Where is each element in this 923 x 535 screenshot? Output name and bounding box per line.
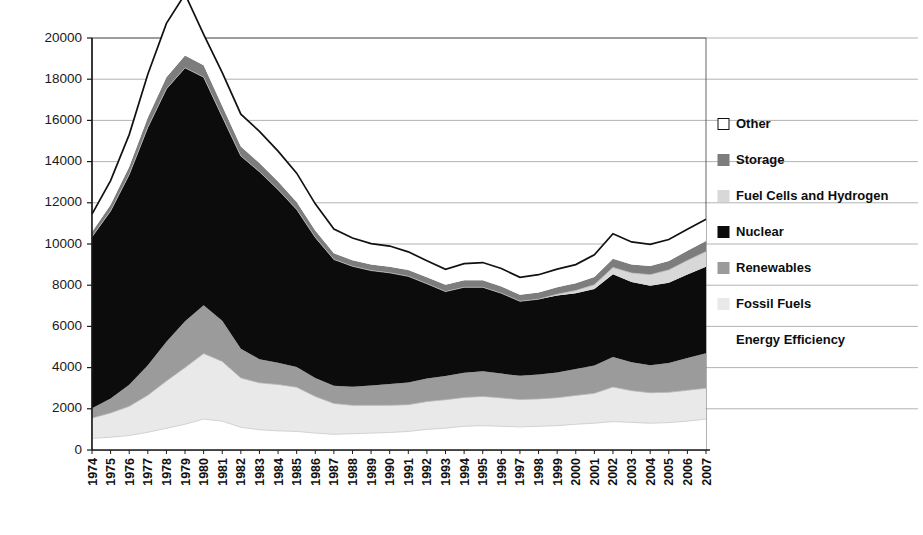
legend-swatch <box>718 299 729 310</box>
legend-label: Nuclear <box>736 224 784 239</box>
x-tick-label: 1983 <box>253 458 267 486</box>
x-tick-label: 2004 <box>644 458 658 486</box>
y-tick-label: 16000 <box>44 112 82 127</box>
x-tick-label: 2005 <box>662 458 676 486</box>
y-tick-label: 10000 <box>44 236 82 251</box>
y-tick-label: 0 <box>74 442 82 457</box>
x-tick-label: 1995 <box>476 458 490 486</box>
legend-item-other[interactable]: Other <box>718 116 771 131</box>
legend-item-fuel-cells-and-hydrogen[interactable]: Fuel Cells and Hydrogen <box>718 188 888 203</box>
y-tick-label: 4000 <box>52 359 82 374</box>
y-tick-label: 18000 <box>44 71 82 86</box>
x-tick-label: 1980 <box>197 458 211 486</box>
x-tick-label: 1994 <box>458 458 472 486</box>
x-tick-label: 1986 <box>309 458 323 486</box>
x-tick-label: 1979 <box>179 458 193 486</box>
legend-item-storage[interactable]: Storage <box>718 152 784 167</box>
legend-item-nuclear[interactable]: Nuclear <box>718 224 784 239</box>
x-tick-label: 1977 <box>141 458 155 486</box>
x-tick-label: 1992 <box>420 458 434 486</box>
x-tick-label: 2003 <box>625 458 639 486</box>
x-tick-label: 2007 <box>700 458 714 486</box>
legend-swatch <box>718 191 729 202</box>
x-tick-label: 1987 <box>327 458 341 486</box>
y-tick-label: 6000 <box>52 318 82 333</box>
x-tick-label: 1975 <box>104 458 118 486</box>
x-tick-label: 1989 <box>365 458 379 486</box>
x-tick-label: 1981 <box>216 458 230 486</box>
x-tick-label: 1998 <box>532 458 546 486</box>
y-tick-label: 14000 <box>44 153 82 168</box>
legend-label: Energy Efficiency <box>736 332 846 347</box>
x-tick-label: 1984 <box>272 458 286 486</box>
legend-swatch <box>718 227 729 238</box>
stacked-area-chart: 0200040006000800010000120001400016000180… <box>0 0 923 535</box>
legend-label: Other <box>736 116 771 131</box>
legend-label: Fossil Fuels <box>736 296 811 311</box>
legend-label: Fuel Cells and Hydrogen <box>736 188 888 203</box>
x-tick-label: 1991 <box>402 458 416 486</box>
x-tick-label: 1997 <box>513 458 527 486</box>
x-tick-label: 1999 <box>551 458 565 486</box>
legend-label: Renewables <box>736 260 811 275</box>
legend-swatch <box>718 263 729 274</box>
legend-swatch <box>718 155 729 166</box>
legend-label: Storage <box>736 152 784 167</box>
x-tick-label: 2000 <box>569 458 583 486</box>
x-tick-label: 1978 <box>160 458 174 486</box>
x-tick-label: 2001 <box>588 458 602 486</box>
x-tick-label: 1974 <box>86 458 100 486</box>
x-tick-label: 1990 <box>383 458 397 486</box>
x-tick-label: 2002 <box>606 458 620 486</box>
x-tick-label: 1982 <box>234 458 248 486</box>
x-tick-label: 1996 <box>495 458 509 486</box>
y-tick-label: 12000 <box>44 194 82 209</box>
legend-swatch <box>718 119 729 130</box>
x-tick-label: 2006 <box>681 458 695 486</box>
y-tick-label: 2000 <box>52 400 82 415</box>
y-tick-label: 20000 <box>44 30 82 45</box>
chart-canvas: 0200040006000800010000120001400016000180… <box>0 0 923 535</box>
legend-item-energy-efficiency[interactable]: Energy Efficiency <box>736 332 846 347</box>
y-tick-label: 8000 <box>52 277 82 292</box>
x-tick-label: 1976 <box>123 458 137 486</box>
x-tick-label: 1993 <box>439 458 453 486</box>
x-tick-label: 1988 <box>346 458 360 486</box>
x-tick-label: 1985 <box>290 458 304 486</box>
